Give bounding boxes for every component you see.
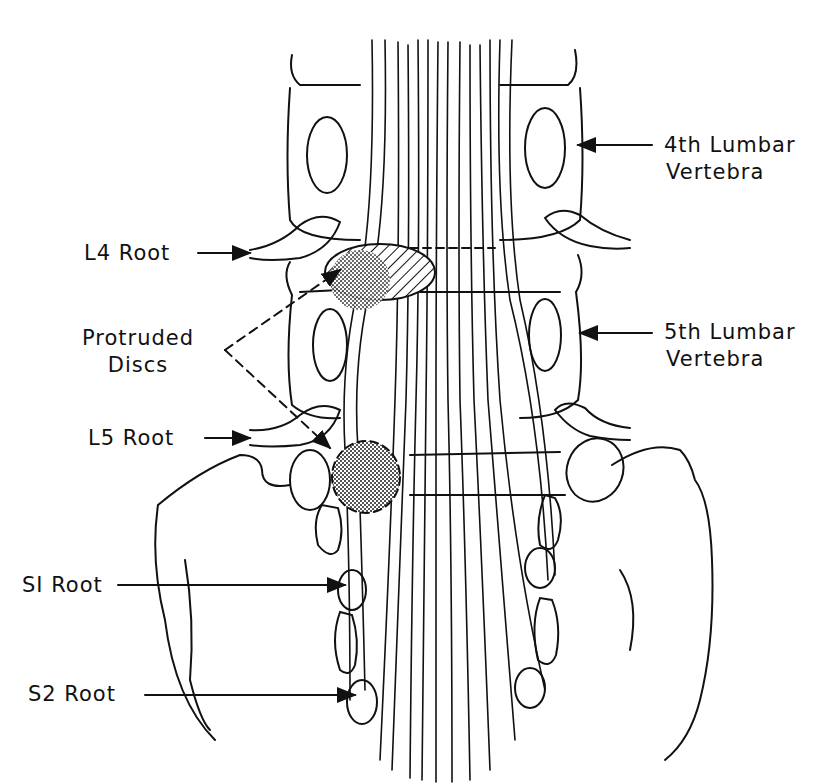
label-5th-lumbar-line2: Vertebra [666, 347, 764, 372]
spine-nerve-root-diagram [0, 0, 838, 784]
label-protruded-discs-line2: Discs [68, 353, 208, 378]
label-l5-root: L5 Root [88, 426, 174, 451]
label-protruded-discs-line1: Protruded [68, 326, 208, 351]
protruded-disc-pointer-upper [225, 270, 340, 350]
label-5th-lumbar-line1: 5th Lumbar [664, 320, 796, 345]
label-s1-root: SI Root [22, 573, 103, 598]
label-s2-root: S2 Root [28, 682, 116, 707]
protruded-disc-pointer-lower [225, 350, 330, 448]
sacrum [155, 430, 712, 760]
protruded-disc-l5 [332, 441, 400, 513]
label-l4-root: L4 Root [84, 241, 170, 266]
label-4th-lumbar-line2: Vertebra [666, 160, 764, 185]
label-4th-lumbar-line1: 4th Lumbar [664, 133, 796, 158]
lumbar-vertebra-4 [288, 50, 583, 240]
